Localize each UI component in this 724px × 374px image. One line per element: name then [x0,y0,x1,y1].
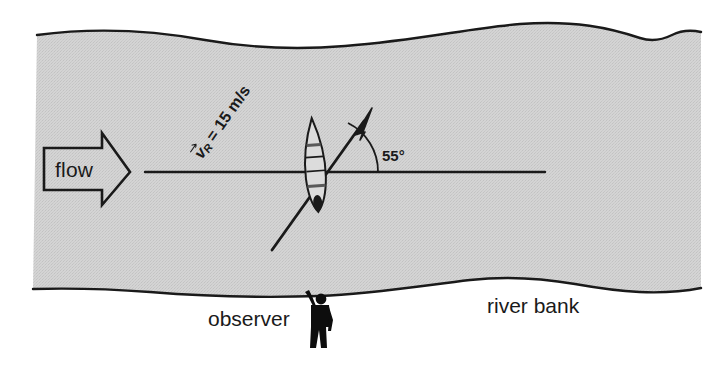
observer-label: observer [208,307,290,331]
observer-figure-icon [305,290,333,348]
angle-label: 55° [382,147,405,164]
diagram-canvas [0,0,724,374]
flow-label: flow [55,158,93,182]
river-band [33,23,701,297]
river-crossing-diagram: flow vR = 15 m/s 55° observer river bank [0,0,724,374]
river-bank-label: river bank [487,294,579,318]
